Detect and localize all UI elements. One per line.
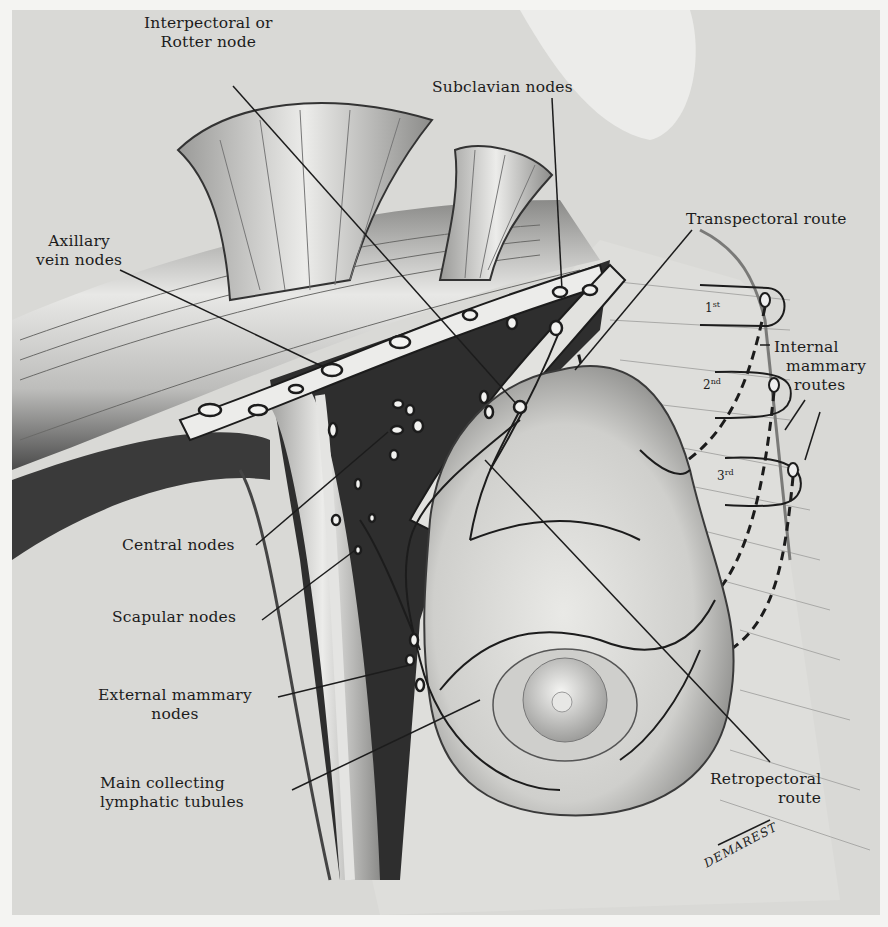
label-line: Internal — [774, 338, 866, 357]
rib-label-1: 1st — [705, 300, 720, 315]
label-line: External mammary — [98, 686, 252, 705]
label-line: Retropectoral — [710, 770, 821, 789]
label-transpectoral-route: Transpectoral route — [686, 210, 847, 229]
label-line: Main collecting — [100, 774, 244, 793]
label-line: routes — [774, 376, 866, 395]
label-interpectoral-node: Interpectoral or Rotter node — [144, 14, 273, 52]
label-line: nodes — [98, 705, 252, 724]
illustration-plate: Interpectoral or Rotter node Subclavian … — [12, 10, 880, 915]
label-line: lymphatic tubules — [100, 793, 244, 812]
label-internal-mammary-routes: Internal mammary routes — [774, 338, 866, 395]
label-line: route — [710, 789, 821, 808]
rib-label-3: 3rd — [717, 468, 734, 483]
rib-label-2: 2nd — [703, 377, 721, 392]
label-line: Interpectoral or — [144, 14, 273, 33]
label-line: vein nodes — [36, 251, 122, 270]
shoulder-contour — [520, 10, 696, 140]
label-axillary-vein-nodes: Axillary vein nodes — [36, 232, 122, 270]
label-line: Axillary — [36, 232, 122, 251]
label-external-mammary-nodes: External mammary nodes — [98, 686, 252, 724]
label-line: Rotter node — [144, 33, 273, 52]
label-subclavian-nodes: Subclavian nodes — [432, 78, 573, 97]
label-line: mammary — [774, 357, 866, 376]
label-central-nodes: Central nodes — [122, 536, 235, 555]
label-main-collecting-tubules: Main collecting lymphatic tubules — [100, 774, 244, 812]
label-scapular-nodes: Scapular nodes — [112, 608, 236, 627]
label-retropectoral-route: Retropectoral route — [710, 770, 821, 808]
